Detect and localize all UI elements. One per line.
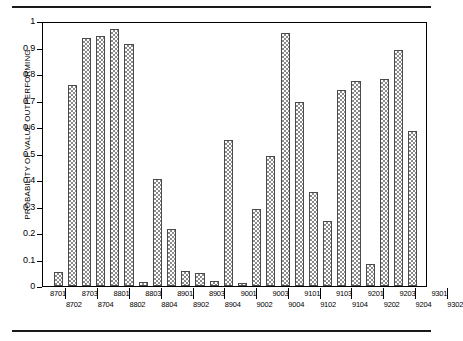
bar	[224, 140, 233, 286]
bar	[238, 283, 247, 286]
bar-slot	[363, 23, 377, 286]
y-axis-tick-label: 0.7	[23, 96, 35, 107]
x-axis-tick-label: 9201	[368, 289, 384, 299]
x-axis: 8701870287038704880188028803880489018902…	[42, 288, 427, 322]
x-axis-tick-label: 9103	[336, 289, 352, 299]
bar	[380, 79, 389, 286]
bar	[210, 281, 219, 286]
x-axis-tick-label: 8804	[161, 300, 177, 310]
bar-series	[43, 23, 426, 286]
x-axis-tick-label: 9104	[352, 300, 368, 310]
bar-slot	[306, 23, 320, 286]
bar-slot	[65, 23, 79, 286]
bar-slot	[278, 23, 292, 286]
bar	[252, 209, 261, 286]
x-axis-tick-label: 9002	[257, 300, 273, 310]
x-axis-tick-label: 9203	[400, 289, 416, 299]
x-axis-tick-label: 8801	[114, 289, 130, 299]
y-axis-tick-label: 0.4	[23, 175, 35, 186]
bar	[295, 102, 304, 286]
x-axis-tick-label: 8903	[209, 289, 225, 299]
bar-slot	[179, 23, 193, 286]
bar	[110, 29, 119, 286]
bar	[281, 33, 290, 286]
bar-slot	[406, 23, 420, 286]
bar	[68, 85, 77, 286]
y-axis-tick-label: 0.3	[23, 202, 35, 213]
bar-slot	[292, 23, 306, 286]
y-axis-tick-label: 0.5	[23, 149, 35, 160]
bar	[139, 282, 148, 286]
bar	[96, 36, 105, 286]
x-axis-tick-label: 9301	[431, 289, 447, 299]
x-axis-tick-label: 8802	[129, 300, 145, 310]
bar-slot	[335, 23, 349, 286]
bar-slot	[392, 23, 406, 286]
bar	[124, 44, 133, 286]
bar-slot	[51, 23, 65, 286]
bar	[153, 179, 162, 286]
y-axis-tick-label: 0.2	[23, 228, 35, 239]
bar-slot	[122, 23, 136, 286]
bar	[408, 131, 417, 286]
plot-area	[42, 22, 427, 287]
bar-slot	[235, 23, 249, 286]
bar	[394, 50, 403, 286]
bar	[195, 273, 204, 286]
y-axis-tick-label: 1	[30, 16, 35, 27]
x-axis-tick-label: 8702	[66, 300, 82, 310]
bar	[167, 229, 176, 286]
y-axis: PROBABILITY OF VALUE OUTPERFORMING 00.10…	[0, 22, 42, 287]
x-axis-tick-label: 9101	[304, 289, 320, 299]
bar	[309, 192, 318, 286]
y-axis-tick-label: 0.9	[23, 43, 35, 54]
bar	[351, 81, 360, 286]
bar-slot	[377, 23, 391, 286]
bar	[82, 38, 91, 286]
bar-slot	[108, 23, 122, 286]
y-axis-tick-label: 0.6	[23, 122, 35, 133]
bar-slot	[94, 23, 108, 286]
x-axis-tick-label: 8704	[98, 300, 114, 310]
x-axis-tick-label: 9204	[415, 300, 431, 310]
y-axis-tick-label: 0.8	[23, 69, 35, 80]
bar-slot	[250, 23, 264, 286]
x-axis-row-lower: 8701870287038704880188028803880489018902…	[50, 300, 421, 310]
bar	[266, 156, 275, 286]
x-axis-tick-label: 8703	[82, 289, 98, 299]
x-axis-row-upper: 8701870287038704880188028803880489018902…	[50, 289, 421, 299]
x-axis-tick-label: 8803	[145, 289, 161, 299]
y-axis-tick-label: 0.1	[23, 255, 35, 266]
x-axis-tick-label: 8901	[177, 289, 193, 299]
bar-slot	[207, 23, 221, 286]
x-axis-tick-label: 8902	[193, 300, 209, 310]
bar-slot	[136, 23, 150, 286]
bar	[366, 264, 375, 286]
x-axis-tick-label: 9202	[384, 300, 400, 310]
bar	[323, 221, 332, 286]
x-axis-tick-label: 8701	[50, 289, 66, 299]
x-axis-tick-label: 9302	[447, 300, 463, 310]
bar	[181, 271, 190, 286]
bottom-rule	[12, 330, 431, 332]
x-axis-tick-label: 8904	[225, 300, 241, 310]
bar-slot	[150, 23, 164, 286]
bar-slot	[221, 23, 235, 286]
x-axis-tick-label: 9003	[272, 289, 288, 299]
bar-slot	[349, 23, 363, 286]
bar-slot	[165, 23, 179, 286]
bar	[337, 90, 346, 286]
x-axis-tick-label: 9001	[241, 289, 257, 299]
y-axis-tick-label: 0	[30, 281, 35, 292]
bar-slot	[193, 23, 207, 286]
x-axis-tick-label: 9004	[288, 300, 304, 310]
bar-slot	[264, 23, 278, 286]
bar-slot	[321, 23, 335, 286]
bar-slot	[79, 23, 93, 286]
top-rule	[12, 6, 431, 8]
bar	[54, 272, 63, 286]
x-axis-tick-label: 9102	[320, 300, 336, 310]
